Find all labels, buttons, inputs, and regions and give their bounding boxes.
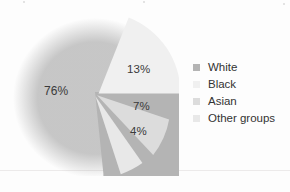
legend-swatch-icon <box>193 98 200 105</box>
slice-label-white: 76% <box>44 84 68 98</box>
pie-graphic <box>11 8 179 176</box>
slice-label-black: 13% <box>127 63 150 75</box>
legend-item-white[interactable]: White <box>193 60 288 75</box>
legend-label-white: White <box>208 60 237 75</box>
pie-svg <box>11 8 179 176</box>
legend-swatch-icon <box>193 115 200 122</box>
pie-chart-figure: 76% 13% 7% 4% White Black Asian Other gr… <box>0 0 290 192</box>
scan-artifact-speck <box>283 3 285 5</box>
legend-label-other-groups: Other groups <box>208 111 275 126</box>
chart-legend: White Black Asian Other groups <box>193 60 288 128</box>
legend-swatch-icon <box>193 81 200 88</box>
scan-artifact-speck <box>23 1 25 3</box>
slice-label-asian: 7% <box>133 100 150 112</box>
legend-item-other-groups[interactable]: Other groups <box>193 111 288 126</box>
legend-label-asian: Asian <box>208 94 237 109</box>
legend-label-black: Black <box>208 77 236 92</box>
legend-item-asian[interactable]: Asian <box>193 94 288 109</box>
legend-swatch-icon <box>193 64 200 71</box>
legend-item-black[interactable]: Black <box>193 77 288 92</box>
slice-label-other-groups: 4% <box>130 125 147 137</box>
scan-artifact-speck <box>143 1 145 3</box>
